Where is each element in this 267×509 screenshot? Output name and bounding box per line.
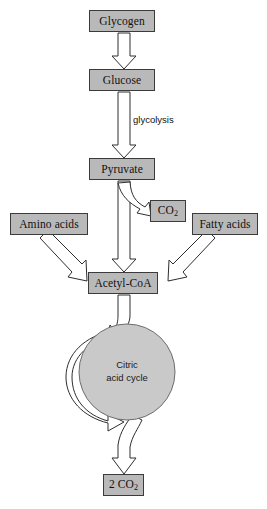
node-pyruvate: Pyruvate [89, 158, 155, 180]
node-acetyl-coa: Acetyl-CoA [88, 272, 158, 294]
edge-label-glycolysis: glycolysis [133, 114, 174, 125]
edge-label-glycolysis-text: glycolysis [133, 114, 174, 125]
node-pyruvate-label: Pyruvate [101, 163, 143, 175]
node-amino-acids: Amino acids [10, 213, 88, 235]
node-glucose-label: Glucose [103, 74, 141, 86]
node-two-co2-subscript: 2 [134, 483, 138, 492]
node-glycogen-label: Glycogen [99, 15, 145, 27]
node-co2: CO2 [150, 200, 186, 222]
citric-acid-cycle-line2: acid cycle [77, 371, 177, 384]
node-two-co2-label: 2 CO2 [109, 478, 138, 492]
node-two-co2: 2 CO2 [103, 474, 144, 496]
node-co2-subscript: 2 [174, 209, 178, 218]
node-acetyl-coa-label: Acetyl-CoA [94, 277, 151, 289]
node-fatty-acids-label: Fatty acids [199, 218, 250, 230]
node-fatty-acids: Fatty acids [192, 213, 258, 235]
node-glycogen: Glycogen [89, 10, 155, 32]
citric-acid-cycle-label: Citric acid cycle [77, 358, 177, 384]
node-co2-label: CO2 [158, 204, 178, 218]
citric-acid-cycle-line1: Citric [77, 358, 177, 371]
metabolic-pathway-diagram: Glycogen Glucose glycolysis Pyruvate CO2… [0, 0, 267, 509]
node-glucose: Glucose [89, 69, 155, 91]
node-amino-acids-label: Amino acids [19, 218, 79, 230]
